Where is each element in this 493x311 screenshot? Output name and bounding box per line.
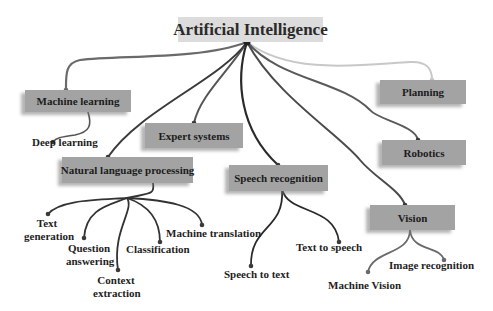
branch-robotics[interactable]: Robotics	[382, 140, 466, 165]
leaf-text-generation[interactable]: Text generation	[24, 217, 70, 243]
leaf-context-extraction[interactable]: Context extraction	[93, 274, 139, 300]
branch-natural-language-processing[interactable]: Natural language processing	[62, 157, 193, 183]
leaf-question-answering[interactable]: Question answering	[66, 242, 112, 268]
branch-expert-systems[interactable]: Expert systems	[145, 123, 243, 148]
leaf-image-recognition[interactable]: Image recognition	[389, 259, 474, 272]
leaf-deep-learning[interactable]: Deep learning	[32, 136, 98, 149]
branch-machine-learning[interactable]: Machine learning	[25, 90, 131, 112]
leaf-question-answering-line2: answering	[66, 255, 112, 268]
link-image-recognition	[410, 230, 444, 260]
root-topic[interactable]: Artificial Intelligence	[178, 17, 323, 42]
leaf-context-extraction-line2: extraction	[93, 287, 139, 300]
branch-speech-recognition[interactable]: Speech recognition	[229, 165, 328, 191]
link-text-generation	[48, 198, 127, 214]
branch-vision[interactable]: Vision	[370, 205, 455, 230]
leaf-machine-translation[interactable]: Machine translation	[166, 227, 261, 240]
link-context-extraction	[117, 198, 129, 270]
link-machine-learning	[66, 42, 247, 90]
leaf-classification[interactable]: Classification	[126, 243, 190, 256]
link-planning	[247, 42, 432, 80]
leaf-context-extraction-line1: Context	[93, 274, 139, 287]
leaf-question-answering-line1: Question	[66, 242, 112, 255]
link-text-to-speech	[282, 189, 339, 242]
leaf-text-to-speech[interactable]: Text to speech	[296, 241, 362, 254]
leaf-text-generation-line2: generation	[24, 230, 70, 243]
leaf-machine-vision[interactable]: Machine Vision	[328, 279, 401, 292]
leaf-speech-to-text[interactable]: Speech to text	[224, 268, 289, 281]
link-expert-systems	[194, 42, 247, 123]
branch-planning[interactable]: Planning	[380, 80, 466, 104]
link-classification	[127, 198, 160, 242]
leaf-text-generation-line1: Text	[24, 217, 70, 230]
